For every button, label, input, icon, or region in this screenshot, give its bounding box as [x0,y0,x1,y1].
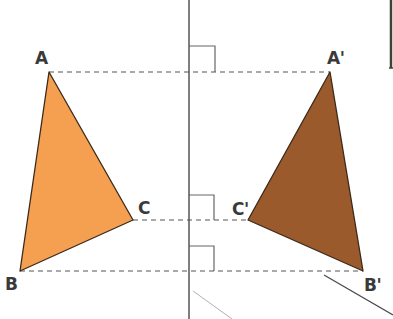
vertex-label-c: C [138,200,150,217]
vertex-label-a: A [35,50,48,67]
original-triangle [20,72,133,271]
right-angle-marker [189,246,214,271]
right-angle-marker [189,46,215,72]
vertex-label-c-prime: C' [232,201,249,218]
right-angle-marker [189,195,214,220]
vertex-label-b-prime: B' [364,277,381,294]
background-line [324,275,393,315]
background-line [193,291,232,319]
vertex-label-b: B [5,276,17,293]
image-triangle [248,72,363,271]
vertex-label-a-prime: A' [327,50,344,67]
right-angle-markers [189,46,215,271]
reflection-diagram: A B C A' B' C' [0,0,393,319]
